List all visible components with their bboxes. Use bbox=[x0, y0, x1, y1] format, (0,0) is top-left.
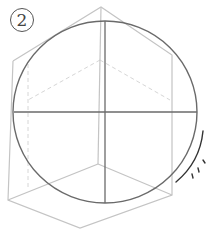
sphere-in-cube-drawing bbox=[0, 0, 216, 232]
cube-edges bbox=[8, 7, 172, 228]
rotation-marks bbox=[176, 131, 205, 182]
center-crosshair bbox=[14, 21, 197, 203]
